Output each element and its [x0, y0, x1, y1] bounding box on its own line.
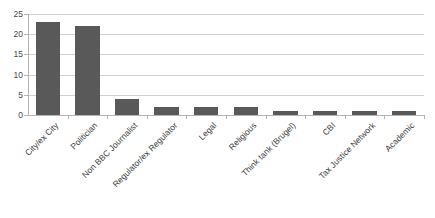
y-tick-label: 10 [14, 70, 23, 79]
bar[interactable] [36, 22, 61, 115]
y-tick-mark [24, 14, 28, 15]
y-tick-mark [24, 34, 28, 35]
x-tick-mark [384, 115, 385, 119]
bar[interactable] [392, 111, 417, 115]
x-axis-label: Politician [69, 121, 99, 151]
y-tick-mark [24, 75, 28, 76]
x-tick-mark [345, 115, 346, 119]
x-tick-mark [424, 115, 425, 119]
x-tick-mark [186, 115, 187, 119]
y-tick-label: 15 [14, 50, 23, 59]
bar[interactable] [352, 111, 377, 115]
x-axis-label: Religious [227, 121, 258, 152]
x-tick-mark [305, 115, 306, 119]
y-tick-label: 5 [18, 91, 23, 100]
x-axis-label: City/ex City [23, 121, 59, 157]
y-tick-label: 25 [14, 10, 23, 19]
bars-layer [28, 14, 424, 115]
x-tick-mark [226, 115, 227, 119]
y-tick-label: 0 [18, 111, 23, 120]
bar[interactable] [234, 107, 259, 115]
x-axis-label: CBI [321, 121, 337, 137]
y-tick-label: 20 [14, 30, 23, 39]
bar[interactable] [194, 107, 219, 115]
x-axis-label: Legal [197, 121, 218, 142]
x-tick-mark [68, 115, 69, 119]
x-tick-mark [107, 115, 108, 119]
bar[interactable] [154, 107, 179, 115]
x-tick-mark [147, 115, 148, 119]
x-tick-mark [266, 115, 267, 119]
bar-chart: 0510152025 City/ex CityPoliticianNon BBC… [0, 0, 435, 218]
y-tick-mark [24, 54, 28, 55]
y-axis: 0510152025 [0, 0, 23, 218]
bar[interactable] [313, 111, 338, 115]
bar[interactable] [75, 26, 100, 115]
y-tick-mark [24, 95, 28, 96]
y-tick-mark [24, 115, 28, 116]
bar[interactable] [273, 111, 298, 115]
x-axis-label: Academic [384, 121, 416, 153]
bar[interactable] [115, 99, 140, 115]
